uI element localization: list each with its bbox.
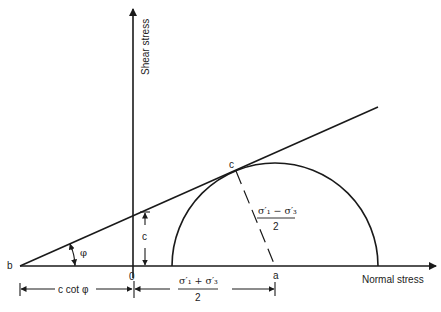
mohr-coulomb-diagram: Shear stress Normal stress 0 b c a φ c c… bbox=[0, 0, 441, 312]
cohesion-label: c bbox=[142, 231, 147, 242]
center-denominator: 2 bbox=[195, 292, 201, 303]
radius-denominator: 2 bbox=[273, 221, 279, 232]
radius-dashed-line bbox=[236, 171, 275, 266]
point-b-label: b bbox=[7, 260, 13, 271]
shear-stress-label: Shear stress bbox=[140, 19, 151, 75]
phi-label: φ bbox=[80, 247, 87, 258]
point-a-label: a bbox=[273, 270, 279, 281]
radius-numerator: σ′₁ − σ′₃ bbox=[258, 205, 297, 216]
failure-envelope-line bbox=[20, 107, 378, 266]
point-c-label: c bbox=[229, 159, 234, 170]
normal-stress-label: Normal stress bbox=[362, 274, 424, 285]
origin-label: 0 bbox=[129, 271, 135, 282]
ccotphi-label: c cot φ bbox=[58, 284, 89, 295]
center-numerator: σ′₁ + σ′₃ bbox=[179, 275, 218, 286]
